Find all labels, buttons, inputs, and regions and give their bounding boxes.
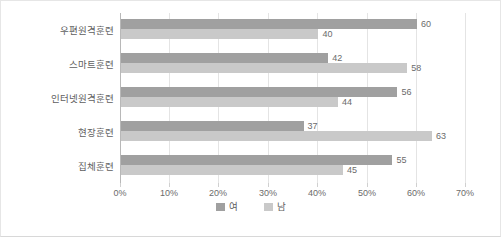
legend-item-female[interactable]: 여 [216,202,238,212]
bar-female[interactable]: 60 [121,19,417,29]
bar-chart-container: 우편원격훈련 스마트훈련 인터넷원격훈련 현장훈련 집체훈련 60 [0,0,501,237]
bar-value-label: 63 [436,132,446,141]
bar-group-internet: 56 44 [120,81,466,115]
bar-value-label: 45 [347,166,357,175]
bar-fill [121,97,338,107]
x-tick-label: 50% [358,188,376,198]
bar-male[interactable]: 58 [121,63,407,73]
bar-female[interactable]: 42 [121,53,328,63]
legend-label: 남 [277,202,286,212]
bar-group-woopyeon: 60 40 [120,13,466,47]
bar-group-jipche: 55 45 [120,149,466,183]
x-tick-label: 20% [209,188,227,198]
x-tick-label: 30% [259,188,277,198]
bar-female[interactable]: 37 [121,121,304,131]
plot-area: 60 40 42 58 56 [120,13,466,183]
x-tick-label: 0% [113,188,126,198]
x-tick-label: 10% [160,188,178,198]
category-label: 우편원격훈련 [60,13,114,47]
legend-label: 여 [229,202,238,212]
bar-value-label: 44 [342,98,352,107]
bar-fill [121,63,407,73]
value-axis-labels: 0% 10% 20% 30% 40% 50% 60% 70% [120,183,466,201]
x-tick-label: 70% [456,188,474,198]
bar-male[interactable]: 63 [121,131,432,141]
legend-item-male[interactable]: 남 [264,202,286,212]
bar-female[interactable]: 56 [121,87,397,97]
bar-value-label: 60 [421,20,431,29]
category-label: 인터넷원격훈련 [51,81,114,115]
bar-male[interactable]: 40 [121,29,318,39]
category-label: 스마트훈련 [69,47,114,81]
bar-rows: 60 40 42 58 56 [120,13,466,183]
bar-value-label: 58 [411,64,421,73]
chart-legend: 여 남 [1,202,500,212]
bar-value-label: 55 [396,156,406,165]
bar-fill [121,155,392,165]
bar-male[interactable]: 45 [121,165,343,175]
bar-fill [121,165,343,175]
category-label: 현장훈련 [78,115,114,149]
x-tick-label: 40% [308,188,326,198]
bar-fill [121,29,318,39]
category-axis-labels: 우편원격훈련 스마트훈련 인터넷원격훈련 현장훈련 집체훈련 [1,13,114,183]
bar-fill [121,87,397,97]
bar-fill [121,131,432,141]
bar-fill [121,53,328,63]
x-tick-label: 60% [407,188,425,198]
legend-swatch-icon [216,203,225,211]
bar-group-smart: 42 58 [120,47,466,81]
bar-value-label: 56 [401,88,411,97]
bar-female[interactable]: 55 [121,155,392,165]
bar-value-label: 37 [308,122,318,131]
category-label: 집체훈련 [78,149,114,183]
bar-male[interactable]: 44 [121,97,338,107]
bar-value-label: 42 [332,54,342,63]
legend-swatch-icon [264,203,273,211]
bar-fill [121,19,417,29]
bar-value-label: 40 [322,30,332,39]
bar-fill [121,121,304,131]
bar-group-hyeonjang: 37 63 [120,115,466,149]
